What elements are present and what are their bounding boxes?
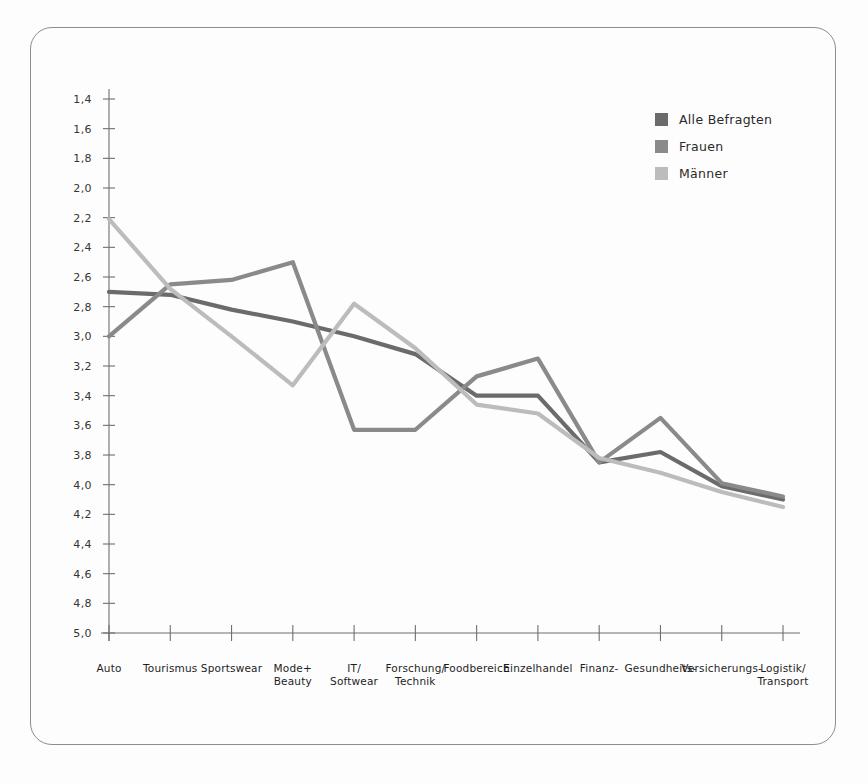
y-tick-label: 1,6 [52,122,92,135]
y-tick-label: 3,6 [52,419,92,432]
y-tick-label: 1,4 [52,93,92,106]
y-tick-label: 5,0 [52,627,92,640]
y-tick-label: 4,2 [52,508,92,521]
y-tick-label: 3,8 [52,449,92,462]
y-tick-label: 1,8 [52,152,92,165]
legend-item: Frauen [655,139,723,154]
y-tick-label: 4,0 [52,478,92,491]
y-tick-label: 3,2 [52,360,92,373]
y-tick-label: 4,4 [52,538,92,551]
y-tick-label: 2,0 [52,182,92,195]
y-tick-label: 2,6 [52,271,92,284]
legend-color-swatch [655,140,668,153]
legend-item: Männer [655,166,728,181]
y-tick-label: 2,8 [52,300,92,313]
y-tick-label: 2,2 [52,211,92,224]
legend-item: Alle Befragten [655,112,772,127]
legend-label: Alle Befragten [679,112,772,127]
series-line-2 [109,262,783,496]
y-tick-label: 4,8 [52,597,92,610]
chart-screenshot: 1,41,61,82,02,22,42,62,83,03,23,43,63,84… [0,0,868,783]
legend-label: Männer [679,166,728,181]
series-line-1 [109,292,783,500]
y-tick-label: 3,0 [52,330,92,343]
y-tick-label: 2,4 [52,241,92,254]
legend-color-swatch [655,113,668,126]
legend-label: Frauen [679,139,723,154]
x-tick-label: Logistik/Transport [718,662,848,688]
y-tick-label: 4,6 [52,567,92,580]
y-tick-label: 3,4 [52,389,92,402]
legend-color-swatch [655,167,668,180]
